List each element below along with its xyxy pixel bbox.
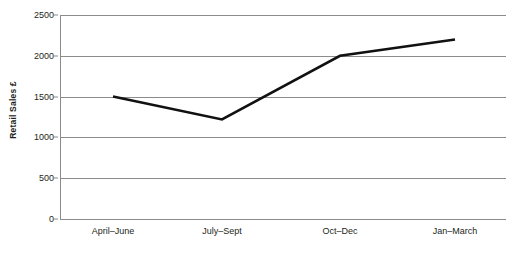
x-tick-label-2: Oct–Dec (322, 227, 357, 236)
x-tick-label-0: April–June (92, 227, 135, 236)
series-layer (0, 0, 513, 255)
series-line-retail-sales (113, 39, 455, 119)
x-axis-ticks: April–JuneJuly–SeptOct–DecJan–March (0, 227, 513, 243)
x-tick-label-1: July–Sept (202, 227, 242, 236)
x-tick-label-3: Jan–March (433, 227, 478, 236)
line-chart: Retail Sales £ 05001000150020002500 Apri… (0, 0, 513, 255)
